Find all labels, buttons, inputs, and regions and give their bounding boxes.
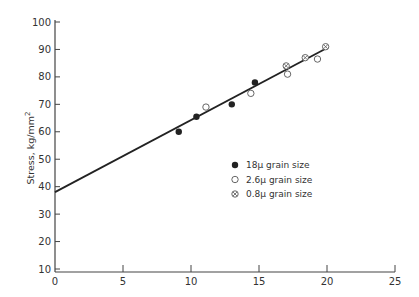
legend-marker <box>232 176 238 182</box>
y-tick-label: 50 <box>38 154 51 165</box>
x-tick-label: 0 <box>52 276 58 287</box>
data-point <box>203 104 209 110</box>
data-point <box>229 101 235 107</box>
legend-label: 2.6μ grain size <box>246 175 313 185</box>
y-tick-label: 30 <box>38 209 51 220</box>
y-tick-label: 80 <box>38 71 51 82</box>
y-tick-label: 100 <box>32 17 51 28</box>
data-point <box>284 71 290 77</box>
y-tick-label: 20 <box>38 236 51 247</box>
legend-label: 18μ grain size <box>246 160 310 170</box>
x-tick-label: 10 <box>185 276 198 287</box>
data-point <box>322 44 328 50</box>
y-tick-label: 70 <box>38 99 51 110</box>
y-tick-label: 60 <box>38 126 51 137</box>
y-tick-label: 40 <box>38 181 51 192</box>
legend-marker <box>232 162 238 168</box>
data-point <box>283 63 289 69</box>
data-point <box>248 90 254 96</box>
stress-vs-grain-chart: 1020304050607080901000510152025 18μ grai… <box>0 0 419 297</box>
fit-line <box>55 48 327 192</box>
data-points <box>176 44 329 135</box>
y-axis-title: Stress, kg/mm2 <box>24 112 36 185</box>
regression-line <box>55 48 327 192</box>
x-tick-label: 15 <box>253 276 266 287</box>
data-point <box>314 56 320 62</box>
y-tick-label: 90 <box>38 44 51 55</box>
data-point <box>302 54 308 60</box>
legend: 18μ grain size2.6μ grain size0.8μ grain … <box>232 160 313 199</box>
legend-marker <box>232 191 238 197</box>
axes: 1020304050607080901000510152025 <box>32 17 401 288</box>
x-tick-label: 5 <box>120 276 126 287</box>
data-point <box>193 113 199 119</box>
x-tick-label: 25 <box>389 276 402 287</box>
data-point <box>252 79 258 85</box>
x-tick-label: 20 <box>321 276 334 287</box>
y-tick-label: 10 <box>38 264 51 275</box>
data-point <box>176 129 182 135</box>
legend-label: 0.8μ grain size <box>246 189 313 199</box>
